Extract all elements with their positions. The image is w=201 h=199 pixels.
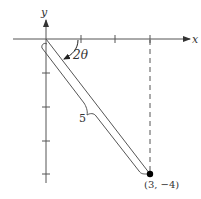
x-axis-label: x (192, 33, 199, 46)
y-axis-label: y (40, 6, 48, 19)
point-marker (147, 171, 153, 177)
point-label: (3, −4) (144, 179, 179, 190)
length-brace (42, 43, 147, 174)
diagram-canvas: y x 2θ 5 (3, −4) (0, 0, 201, 199)
x-axis (13, 35, 190, 43)
angle-label: 2θ (72, 48, 89, 62)
length-label: 5 (79, 112, 86, 125)
segment-line (46, 39, 150, 174)
